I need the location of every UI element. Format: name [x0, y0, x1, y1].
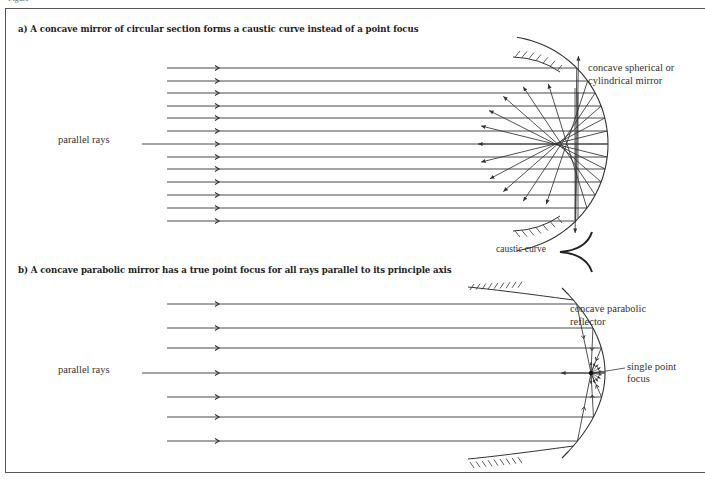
mirror-hatch-mark [536, 55, 541, 61]
reflected-ray [489, 110, 605, 169]
reflected-ray [548, 84, 587, 208]
mirror-hatch-mark [488, 283, 492, 289]
mirror-hatch-mark [500, 459, 504, 465]
mirror-hatch-mark [557, 217, 562, 223]
parabolic-mirror-diagram [142, 282, 625, 468]
mirror-top-edge [513, 57, 560, 72]
mirror-hatch-mark [543, 57, 548, 63]
mirror-hatch-mark [529, 229, 534, 235]
caustic-curve-icon [560, 232, 592, 272]
mirror-hatch-mark [494, 283, 498, 289]
reflected-ray [503, 106, 601, 192]
mirror-hatch-mark [470, 462, 474, 468]
focal-point-icon [589, 371, 593, 375]
mirror-hatch-mark [506, 282, 510, 288]
mirror-hatch-mark [522, 51, 527, 57]
mirror-hatch-mark [512, 282, 516, 288]
mirror-hatch-mark [476, 461, 480, 467]
mirror-hatch-mark [522, 231, 527, 237]
mirror-hatch-mark [515, 231, 520, 237]
mirror-hatch-mark [550, 61, 555, 67]
mirror-hatch-mark [482, 461, 486, 467]
reflector-bottom-edge [468, 446, 573, 459]
mirror-hatch-mark [512, 458, 516, 464]
mirror-hatch-mark [515, 51, 520, 57]
mirror-hatch-mark [543, 225, 548, 231]
mirror-hatch-mark [476, 284, 480, 290]
mirror-hatch-mark [518, 457, 522, 463]
mirror-hatch-mark [536, 228, 541, 234]
mirror-hatch-mark [500, 283, 504, 289]
reflector-top-edge [468, 287, 573, 300]
reflected-ray [523, 87, 595, 195]
reflected-ray [523, 93, 595, 201]
mirror-bottom-edge [513, 216, 560, 231]
mirror-hatch-mark [550, 221, 555, 227]
mirror-hatch-mark [488, 460, 492, 466]
mirror-hatch-mark [518, 282, 522, 288]
mirror-hatch-mark [506, 458, 510, 464]
spherical-mirror-diagram [142, 37, 608, 272]
mirror-hatch-mark [494, 460, 498, 466]
mirror-hatch-mark [529, 53, 534, 59]
